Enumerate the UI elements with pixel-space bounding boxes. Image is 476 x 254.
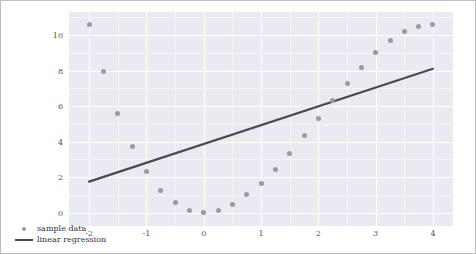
scatter-point [130, 144, 135, 149]
scatter-point [416, 24, 421, 29]
legend-item-linear-regression: linear regression [11, 234, 106, 245]
scatter-point [259, 181, 264, 186]
x-tick-label: 2 [316, 229, 321, 238]
scatter-point [345, 81, 350, 86]
x-tick-label: 1 [258, 229, 263, 238]
scatter-point [316, 116, 321, 121]
legend-item-sample-data: sample data [11, 223, 106, 234]
linear-regression-line [89, 69, 433, 182]
y-tick-label: 4 [23, 137, 63, 146]
scatter-point [87, 22, 92, 27]
scatter-point [302, 133, 307, 138]
scatter-point [273, 167, 278, 172]
scatter-point [359, 65, 364, 70]
y-tick-label: 0 [23, 208, 63, 217]
y-tick-label: 2 [23, 173, 63, 182]
chart-legend: sample data linear regression [11, 223, 106, 245]
scatter-point [173, 200, 178, 205]
scatter-point [287, 151, 292, 156]
legend-label-linear-regression: linear regression [37, 234, 106, 245]
scatter-point [101, 69, 106, 74]
legend-line-icon [11, 239, 37, 241]
scatter-point [402, 29, 407, 34]
scatter-point [230, 202, 235, 207]
x-tick-label: 4 [430, 229, 435, 238]
scatter-point [187, 208, 192, 213]
x-tick-label: 3 [373, 229, 378, 238]
scatter-point [216, 208, 221, 213]
y-tick-label: 6 [23, 102, 63, 111]
scatter-point [115, 111, 120, 116]
y-tick-label: 8 [23, 66, 63, 75]
x-tick-label: -1 [142, 229, 150, 238]
legend-label-sample-data: sample data [37, 223, 86, 234]
y-tick-label: 10 [23, 31, 63, 40]
scatter-point [388, 38, 393, 43]
legend-marker-dot-icon [11, 227, 37, 231]
regression-line-layer [69, 12, 453, 226]
plot-area [69, 12, 453, 226]
chart-figure: 0246810 -2-101234 sample data linear reg… [0, 0, 476, 254]
x-tick-label: 0 [201, 229, 206, 238]
